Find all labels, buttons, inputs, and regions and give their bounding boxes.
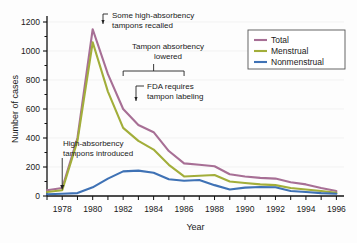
y-axis-tick-label: 600 [26,104,40,114]
legend-label-nonmenstrual: Nonmenstrual [271,57,324,67]
x-axis-tick-label: 1996 [327,204,346,214]
x-axis-tick-label: 1984 [144,204,163,214]
x-axis-title: Year [186,222,204,232]
y-axis-tick-label: 200 [26,162,40,172]
anno-fda-line1: FDA requires [147,82,194,91]
anno-absorbency-lowered-line1: Tampon absorbency [132,42,204,51]
chart-container: 020040060080010001200 197819801982198419… [0,0,357,243]
line-chart: 020040060080010001200 197819801982198419… [0,0,357,243]
y-axis-tick-label: 1200 [21,17,40,27]
y-axis-tick-label: 1000 [21,46,40,56]
anno-fda-line2: tampon labeling [147,92,203,101]
anno-introduced-line1: High-absorbency [63,139,123,148]
legend-label-total: Total [271,35,289,45]
anno-recalled-line2: tampons recalled [112,21,173,30]
x-axis-tick-label: 1990 [236,204,255,214]
x-axis-tick-label: 1980 [83,204,102,214]
anno-recalled-line1: Some high-absorbency [112,11,194,20]
anno-introduced-line2: tampons introduced [63,149,133,158]
y-axis-title: Number of cases [10,74,20,143]
x-axis-tick-label: 1978 [53,204,72,214]
x-axis-tick-label: 1994 [296,204,315,214]
x-axis-tick-label: 1982 [114,204,133,214]
y-axis-tick-label: 400 [26,133,40,143]
x-axis-tick-label: 1988 [205,204,224,214]
y-axis-tick-label: 0 [35,191,40,201]
legend-label-menstrual: Menstrual [271,46,308,56]
x-axis-tick-label: 1992 [266,204,285,214]
anno-absorbency-lowered-line2: lowered [154,52,182,61]
chart-legend: TotalMenstrualNonmenstrual [248,30,345,69]
x-axis-tick-label: 1986 [175,204,194,214]
y-axis-tick-label: 800 [26,75,40,85]
